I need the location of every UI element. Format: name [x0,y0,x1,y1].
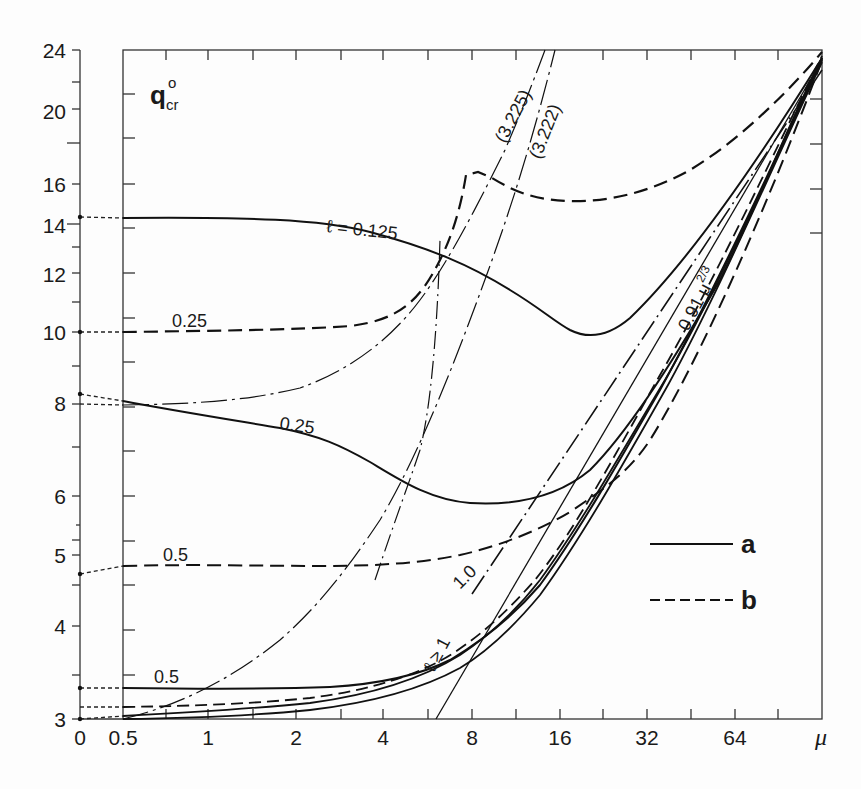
y-tick-24: 24 [43,39,67,62]
y-tick-12: 12 [43,263,66,286]
curve-a-10 [123,60,822,716]
y-label-q: q [150,80,166,110]
x-tick-0.5: 0.5 [108,726,137,749]
curve-thin-line [436,60,822,719]
y-label-sup: o [168,74,176,91]
x-tick-4: 4 [377,726,389,749]
y-label-sub: cr [166,96,179,113]
curve-a-ge1 [123,62,822,719]
y-tick-labels: 24 20 16 14 12 10 8 6 5 4 3 [43,39,67,731]
y-tick-5: 5 [54,544,66,567]
label-025-dashed: 0.25 [172,311,207,331]
label-05-solid: 0.5 [154,667,179,687]
plot-frame [123,50,822,719]
curve-a-0125 [123,58,822,335]
x-tick-8: 8 [466,726,478,749]
label-025-solid: 0.25 [278,413,315,438]
mu0-connectors [80,217,123,719]
label-05-dashed: 0.5 [163,545,188,565]
x-axis-label: μ [814,724,827,750]
curve-b-10 [123,56,822,707]
chart: 24 20 16 14 12 10 8 6 5 4 3 0 0.5 1 2 4 … [0,0,861,789]
x-tick-2: 2 [290,726,302,749]
y-tick-8: 8 [54,392,66,415]
x-tick-1: 1 [202,726,214,749]
x-tick-64: 64 [723,726,747,749]
y-tick-3: 3 [54,708,66,731]
legend: a b [650,529,757,615]
y-tick-16: 16 [43,173,66,196]
x-tick-32: 32 [635,726,658,749]
y-tick-10: 10 [43,321,66,344]
label-l-0125: ℓ = 0.125 [326,216,399,243]
label-eq-3225: (3.225) [491,86,535,146]
legend-label-b: b [741,585,757,615]
y-tick-4: 4 [54,615,66,638]
curves [123,50,822,719]
curve-steep [375,240,440,580]
y-ticks-outer [67,50,80,719]
x-ticks [166,50,778,719]
x-tick-16: 16 [548,726,571,749]
y-tick-6: 6 [54,485,66,508]
y-ticks-inner [123,94,822,675]
x-tick-0: 0 [74,726,86,749]
y-tick-14: 14 [43,214,67,237]
label-eq-3222: (3.222) [525,101,565,161]
y-tick-20: 20 [43,100,66,123]
label-l-ge-1: ℓ ≥ 1 [420,634,454,675]
y-axis-label: q o cr [150,74,179,113]
label-asymptote: 0.91 μ 2/3 [669,263,723,334]
curve-3222 [123,50,555,719]
legend-label-a: a [741,529,756,559]
x-tick-labels: 0 0.5 1 2 4 8 16 32 64 [74,726,747,749]
